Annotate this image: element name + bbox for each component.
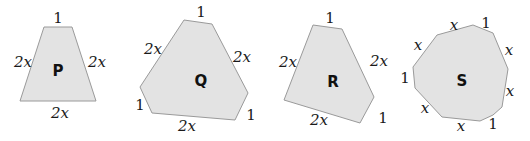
side-label: x xyxy=(505,41,514,59)
shape-q: Q 1 2x 2x 1 1 2x xyxy=(135,3,256,135)
side-label: 1 xyxy=(400,69,410,87)
shape-r: R 1 2x 2x 2x 1 xyxy=(278,9,389,129)
side-label: 1 xyxy=(246,106,256,124)
side-label: 1 xyxy=(378,109,388,127)
side-label: 2x xyxy=(309,111,329,129)
side-label: 1 xyxy=(53,9,63,27)
shape-name-p: P xyxy=(53,62,64,80)
side-label: 2x xyxy=(87,53,107,71)
side-label: 1 xyxy=(135,96,145,114)
polygon-q xyxy=(140,20,248,120)
shape-name-q: Q xyxy=(195,72,208,90)
side-label: 2x xyxy=(143,40,163,58)
polygon-figure: P 1 2x 2x 2x Q 1 2x 2x 1 1 2x R 1 2x 2x … xyxy=(0,0,530,141)
side-label: 1 xyxy=(196,3,206,21)
side-label: 1 xyxy=(325,9,335,27)
shape-p: P 1 2x 2x 2x xyxy=(13,9,107,122)
side-label: 2x xyxy=(369,52,389,70)
side-label: 2x xyxy=(278,53,298,71)
shape-s: S x 1 x x 1 x x 1 x xyxy=(400,14,515,135)
side-label: x xyxy=(457,117,466,135)
side-label: x xyxy=(450,16,459,34)
shape-name-r: R xyxy=(327,73,339,91)
side-label: 2x xyxy=(232,48,252,66)
side-label: x xyxy=(421,99,430,117)
shape-name-s: S xyxy=(457,72,468,90)
side-label: x xyxy=(506,82,515,100)
side-label: x xyxy=(414,36,423,54)
side-label: 1 xyxy=(488,115,498,133)
side-label: 2x xyxy=(50,104,70,122)
side-label: 2x xyxy=(13,53,33,71)
side-label: 2x xyxy=(177,117,197,135)
side-label: 1 xyxy=(481,14,491,32)
